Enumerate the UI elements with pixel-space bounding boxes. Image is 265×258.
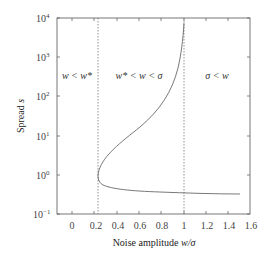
svg-text:100: 100 xyxy=(36,169,50,181)
svg-text:103: 103 xyxy=(36,51,50,63)
svg-text:0.6: 0.6 xyxy=(134,220,147,231)
svg-text:0.8: 0.8 xyxy=(156,220,169,231)
svg-text:0.2: 0.2 xyxy=(90,220,103,231)
region-label-1: w < w* xyxy=(62,70,92,81)
plot-frame xyxy=(57,18,250,214)
region-label-2: w* < w < σ xyxy=(116,70,164,81)
region-label-3: σ < w xyxy=(205,70,229,81)
svg-text:1.4: 1.4 xyxy=(223,220,236,231)
chart: 104 103 102 101 100 10−1 Spread s 0 0.2 … xyxy=(0,0,265,258)
svg-text:104: 104 xyxy=(36,12,50,24)
svg-text:101: 101 xyxy=(36,130,50,142)
y-axis: 104 103 102 101 100 10−1 xyxy=(33,12,250,220)
svg-text:0: 0 xyxy=(70,220,75,231)
svg-text:1.2: 1.2 xyxy=(201,220,214,231)
svg-text:10−1: 10−1 xyxy=(33,208,51,220)
svg-text:1.6: 1.6 xyxy=(245,220,258,231)
y-axis-label: Spread s xyxy=(15,99,26,133)
svg-text:0.4: 0.4 xyxy=(112,220,125,231)
svg-text:1: 1 xyxy=(182,220,187,231)
spread-curve xyxy=(98,23,240,194)
svg-text:102: 102 xyxy=(36,90,50,102)
x-axis-label: Noise amplitude w/σ xyxy=(113,237,197,248)
